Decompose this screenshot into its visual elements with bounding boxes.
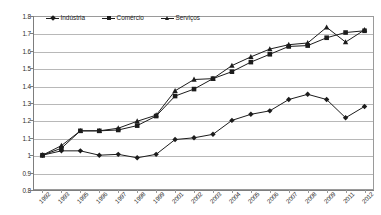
x-tick-label: 2011 xyxy=(341,190,355,204)
x-tick-label: 2003 xyxy=(208,190,222,204)
y-tick-mark xyxy=(30,33,33,34)
x-tick-label: 1995 xyxy=(76,190,90,204)
x-tick-mark xyxy=(80,190,81,193)
x-tick-label: 2006 xyxy=(265,190,279,204)
line-chart: 1.81.71.61.51.41.31.21.110.90.8 19921993… xyxy=(0,0,381,215)
x-tick-mark xyxy=(213,190,214,193)
y-tick-mark xyxy=(30,190,33,191)
x-axis-ticks: 1992199319951996199719981999200120022003… xyxy=(0,192,381,214)
y-tick-label: 1.1 xyxy=(3,134,31,141)
gridline xyxy=(34,87,373,88)
legend-marker-diamond-icon xyxy=(46,14,59,22)
gridline xyxy=(34,52,373,53)
legend-marker-square-icon xyxy=(102,14,115,22)
y-axis-line xyxy=(33,16,34,190)
gridline xyxy=(34,69,373,70)
y-tick-label: 1.6 xyxy=(3,47,31,54)
y-tick-mark xyxy=(30,138,33,139)
x-tick-label: 2009 xyxy=(322,190,336,204)
x-tick-mark xyxy=(365,190,366,193)
x-tick-label: 2007 xyxy=(284,190,298,204)
y-tick-mark xyxy=(30,155,33,156)
x-tick-label: 2012 xyxy=(360,190,374,204)
y-tick-mark xyxy=(30,86,33,87)
y-axis-ticks: 1.81.71.61.51.41.31.21.110.90.8 xyxy=(0,0,31,215)
legend-label: Serviços xyxy=(175,15,200,21)
gridline xyxy=(34,34,373,35)
gridline xyxy=(34,139,373,140)
x-tick-mark xyxy=(99,190,100,193)
x-tick-mark xyxy=(194,190,195,193)
y-tick-label: 0.9 xyxy=(3,169,31,176)
y-tick-label: 1 xyxy=(3,152,31,159)
y-tick-mark xyxy=(30,173,33,174)
x-tick-mark xyxy=(270,190,271,193)
x-tick-label: 1993 xyxy=(57,190,71,204)
x-tick-mark xyxy=(327,190,328,193)
legend-item-servicos[interactable]: Serviços xyxy=(161,14,200,22)
gridline xyxy=(34,156,373,157)
y-tick-mark xyxy=(30,103,33,104)
x-tick-label: 2005 xyxy=(246,190,260,204)
plot-area xyxy=(33,16,374,190)
x-tick-label: 1997 xyxy=(114,190,128,204)
y-tick-mark xyxy=(30,120,33,121)
y-tick-mark xyxy=(30,16,33,17)
x-tick-label: 1998 xyxy=(132,190,146,204)
x-tick-label: 2004 xyxy=(227,190,241,204)
x-tick-mark xyxy=(175,190,176,193)
x-tick-mark xyxy=(61,190,62,193)
gridline xyxy=(34,174,373,175)
x-tick-label: 2001 xyxy=(170,190,184,204)
x-tick-mark xyxy=(137,190,138,193)
legend-marker-triangle-icon xyxy=(161,14,174,22)
x-tick-mark xyxy=(251,190,252,193)
x-tick-mark xyxy=(308,190,309,193)
y-tick-label: 1.3 xyxy=(3,100,31,107)
y-tick-label: 1.5 xyxy=(3,65,31,72)
x-tick-mark xyxy=(232,190,233,193)
legend-label: Comércio xyxy=(117,15,144,21)
x-tick-mark xyxy=(289,190,290,193)
y-tick-label: 1.7 xyxy=(3,30,31,37)
y-tick-label: 1.8 xyxy=(3,13,31,20)
x-tick-label: 1992 xyxy=(38,190,52,204)
x-tick-label: 2008 xyxy=(303,190,317,204)
y-tick-mark xyxy=(30,68,33,69)
legend-item-industria[interactable]: Indústria xyxy=(46,14,85,22)
legend-label: Indústria xyxy=(61,15,86,21)
x-tick-mark xyxy=(346,190,347,193)
y-tick-label: 1.4 xyxy=(3,82,31,89)
y-tick-label: 1.2 xyxy=(3,117,31,124)
gridline xyxy=(34,104,373,105)
x-tick-mark xyxy=(156,190,157,193)
chart-legend: Indústria Comércio Serviços xyxy=(46,14,200,22)
legend-item-comercio[interactable]: Comércio xyxy=(102,14,144,22)
x-tick-label: 2002 xyxy=(189,190,203,204)
x-tick-mark xyxy=(42,190,43,193)
x-tick-label: 1999 xyxy=(151,190,165,204)
x-tick-label: 1996 xyxy=(95,190,109,204)
y-tick-mark xyxy=(30,51,33,52)
x-tick-mark xyxy=(118,190,119,193)
gridline xyxy=(34,121,373,122)
